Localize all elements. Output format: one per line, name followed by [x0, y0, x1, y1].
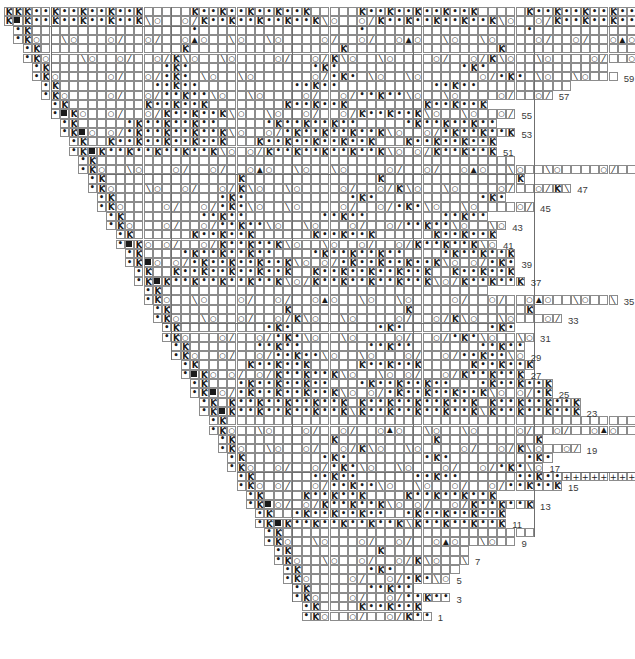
chart-cell-yarn-over[interactable]: ○ [116, 202, 125, 211]
chart-cell-empty-cell[interactable] [237, 81, 246, 90]
chart-cell-k2tog-decrease[interactable]: ╱ [395, 221, 404, 230]
chart-cell-purl-stitch[interactable]: • [330, 249, 339, 258]
chart-cell-empty-cell[interactable] [367, 314, 376, 323]
chart-cell-purl-stitch[interactable]: • [441, 472, 450, 481]
chart-cell-purl-stitch[interactable]: • [246, 221, 255, 230]
chart-cell-empty-cell[interactable] [330, 184, 339, 193]
chart-cell-knit-twisted-stitch[interactable]: Ƙ [171, 54, 180, 63]
chart-cell-purl-stitch[interactable]: • [302, 81, 311, 90]
chart-cell-purl-stitch[interactable]: • [367, 7, 376, 16]
chart-cell-empty-cell[interactable] [292, 323, 301, 332]
chart-cell-empty-cell[interactable] [264, 314, 273, 323]
chart-cell-empty-cell[interactable] [311, 286, 320, 295]
chart-cell-empty-cell[interactable] [246, 63, 255, 72]
chart-cell-empty-cell[interactable] [311, 565, 320, 574]
chart-cell-empty-cell[interactable] [488, 202, 497, 211]
chart-cell-empty-cell[interactable] [627, 426, 635, 435]
chart-cell-empty-cell[interactable] [441, 156, 450, 165]
chart-cell-knit-twisted-stitch[interactable]: Ƙ [106, 193, 115, 202]
chart-cell-knit-twisted-stitch[interactable]: Ƙ [218, 249, 227, 258]
chart-cell-empty-cell[interactable] [60, 54, 69, 63]
chart-cell-empty-cell[interactable] [292, 212, 301, 221]
chart-cell-empty-cell[interactable] [339, 360, 348, 369]
chart-cell-purl-stitch[interactable]: • [525, 472, 534, 481]
chart-cell-empty-cell[interactable] [423, 81, 432, 90]
chart-cell-knit-twisted-stitch[interactable]: Ƙ [423, 388, 432, 397]
chart-cell-yarn-over[interactable]: ○ [264, 426, 273, 435]
chart-cell-knit-twisted-stitch[interactable]: Ƙ [450, 128, 459, 137]
chart-cell-empty-cell[interactable] [339, 295, 348, 304]
chart-cell-empty-cell[interactable] [478, 314, 487, 323]
chart-cell-empty-cell[interactable] [237, 91, 246, 100]
chart-cell-knit-twisted-stitch[interactable]: Ƙ [376, 147, 385, 156]
chart-cell-yarn-over[interactable]: ○ [376, 184, 385, 193]
chart-cell-empty-cell[interactable] [237, 156, 246, 165]
chart-cell-purl-stitch[interactable]: • [292, 81, 301, 90]
chart-cell-knit-twisted-stitch[interactable]: Ƙ [302, 7, 311, 16]
chart-cell-purl-stitch[interactable]: • [246, 16, 255, 25]
chart-cell-knit-twisted-stitch[interactable]: Ƙ [302, 370, 311, 379]
chart-cell-empty-cell[interactable] [283, 165, 292, 174]
chart-cell-empty-cell[interactable] [534, 63, 543, 72]
chart-cell-empty-cell[interactable] [97, 100, 106, 109]
chart-cell-empty-cell[interactable] [264, 26, 273, 35]
chart-cell-empty-cell[interactable] [330, 333, 339, 342]
chart-cell-empty-cell[interactable] [478, 295, 487, 304]
chart-cell-purl-stitch[interactable]: • [209, 128, 218, 137]
chart-cell-purl-stitch[interactable]: • [348, 509, 357, 518]
chart-cell-empty-cell[interactable] [488, 109, 497, 118]
chart-cell-purl-stitch[interactable]: • [478, 379, 487, 388]
chart-cell-knit-twisted-stitch[interactable]: Ƙ [190, 7, 199, 16]
chart-cell-k2tog-decrease[interactable]: ╱ [311, 500, 320, 509]
chart-cell-knit-twisted-stitch[interactable]: Ƙ [367, 277, 376, 286]
chart-cell-purl-stitch[interactable]: • [395, 91, 404, 100]
chart-cell-empty-cell[interactable] [469, 435, 478, 444]
chart-cell-empty-cell[interactable] [376, 35, 385, 44]
chart-cell-yarn-over[interactable]: ○ [367, 388, 376, 397]
chart-cell-knit-twisted-stitch[interactable]: Ƙ [516, 379, 525, 388]
chart-cell-knit-twisted-stitch[interactable]: Ƙ [367, 267, 376, 276]
chart-cell-empty-cell[interactable] [190, 221, 199, 230]
chart-cell-yarn-over[interactable]: ○ [497, 184, 506, 193]
chart-cell-knit-twisted-stitch[interactable]: Ƙ [413, 119, 422, 128]
chart-cell-empty-cell[interactable] [218, 342, 227, 351]
chart-cell-purl-stitch[interactable]: • [162, 147, 171, 156]
chart-cell-knit-twisted-stitch[interactable]: Ƙ [246, 7, 255, 16]
chart-cell-empty-cell[interactable] [162, 286, 171, 295]
chart-cell-purl-stitch[interactable]: • [144, 119, 153, 128]
chart-cell-empty-cell[interactable] [562, 165, 571, 174]
chart-cell-purl-stitch[interactable]: • [190, 147, 199, 156]
chart-cell-empty-cell[interactable] [106, 63, 115, 72]
chart-cell-purl-stitch[interactable]: • [181, 119, 190, 128]
chart-cell-empty-cell[interactable] [432, 481, 441, 490]
chart-cell-yarn-over[interactable]: ○ [274, 295, 283, 304]
chart-cell-empty-cell[interactable] [478, 323, 487, 332]
chart-cell-purl-stitch[interactable]: • [432, 407, 441, 416]
chart-cell-knit-twisted-stitch[interactable]: Ƙ [23, 35, 32, 44]
chart-cell-knit-twisted-stitch[interactable]: Ƙ [553, 16, 562, 25]
chart-cell-empty-cell[interactable] [460, 537, 469, 546]
chart-cell-knit-twisted-stitch[interactable]: Ƙ [181, 342, 190, 351]
chart-cell-knit-twisted-stitch[interactable]: Ƙ [190, 128, 199, 137]
chart-cell-yarn-over[interactable]: ○ [255, 91, 264, 100]
chart-cell-purl-stitch[interactable]: • [190, 100, 199, 109]
chart-cell-empty-cell[interactable] [199, 286, 208, 295]
chart-cell-empty-cell[interactable] [404, 528, 413, 537]
chart-cell-purl-stitch[interactable]: • [469, 16, 478, 25]
chart-cell-repeat-marker[interactable] [13, 16, 22, 25]
chart-cell-purl-stitch[interactable]: • [478, 491, 487, 500]
chart-cell-empty-cell[interactable] [478, 528, 487, 537]
chart-cell-knit-twisted-stitch[interactable]: Ƙ [13, 7, 22, 16]
chart-cell-ssk-decrease[interactable]: ╲ [571, 72, 580, 81]
chart-cell-empty-cell[interactable] [218, 26, 227, 35]
chart-cell-repeat-marker[interactable] [144, 258, 153, 267]
chart-cell-empty-cell[interactable] [488, 472, 497, 481]
chart-cell-empty-cell[interactable] [534, 314, 543, 323]
chart-cell-empty-cell[interactable] [227, 63, 236, 72]
chart-cell-empty-cell[interactable] [506, 202, 515, 211]
chart-cell-empty-cell[interactable] [376, 165, 385, 174]
chart-cell-purl-stitch[interactable]: • [330, 72, 339, 81]
chart-cell-k2tog-decrease[interactable]: ╱ [395, 165, 404, 174]
chart-cell-purl-stitch[interactable]: • [450, 137, 459, 146]
chart-cell-empty-cell[interactable] [488, 26, 497, 35]
